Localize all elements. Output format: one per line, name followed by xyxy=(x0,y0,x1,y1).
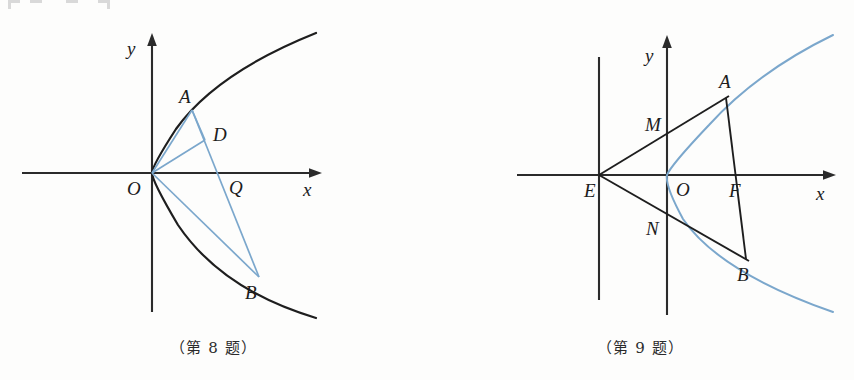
segment-AB xyxy=(726,98,746,259)
segment-OA xyxy=(152,110,192,173)
y-axis-label: y xyxy=(643,45,654,66)
figure-8-caption: （第 8 题） xyxy=(0,336,427,357)
point-label-E: E xyxy=(583,180,596,201)
figure-9-canvas: E M N O F A B x y xyxy=(427,0,854,380)
x-axis-label: x xyxy=(815,183,825,204)
parabola-curve xyxy=(667,35,833,312)
point-label-Q: Q xyxy=(229,177,243,198)
point-label-M: M xyxy=(644,114,662,135)
point-label-D: D xyxy=(212,124,227,145)
segment-AD xyxy=(192,110,205,140)
point-label-A: A xyxy=(717,71,731,92)
parabola-curve xyxy=(152,33,316,318)
figure-problem-8: A D Q B O x y （第 8 题） xyxy=(0,0,427,380)
point-label-B: B xyxy=(737,264,749,285)
x-axis-label: x xyxy=(302,179,312,200)
construction-lines xyxy=(152,110,259,277)
construction-lines xyxy=(599,96,749,261)
y-axis-label: y xyxy=(125,38,136,59)
point-label-F: F xyxy=(728,180,741,201)
segment-EB xyxy=(599,175,749,261)
point-label-B: B xyxy=(245,282,257,303)
page-root: A D Q B O x y （第 8 题） xyxy=(0,0,854,380)
point-label-O: O xyxy=(127,178,141,199)
point-label-A: A xyxy=(177,86,191,107)
figure-9-caption: （第 9 题） xyxy=(427,336,854,357)
x-axis xyxy=(22,168,322,178)
point-label-O: O xyxy=(676,179,690,200)
point-label-N: N xyxy=(645,218,660,239)
segment-EA xyxy=(599,96,729,175)
figure-problem-9: E M N O F A B x y （第 9 题） xyxy=(427,0,854,380)
figure-8-canvas: A D Q B O x y xyxy=(0,0,427,380)
segment-OB xyxy=(152,173,259,277)
